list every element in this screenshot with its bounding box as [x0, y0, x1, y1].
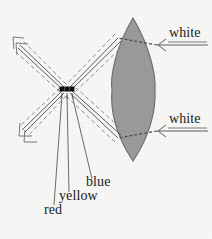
label-yellow: yellow	[59, 189, 98, 203]
biconvex-lens-shape	[112, 18, 156, 161]
upper-incoming-beam	[157, 39, 208, 51]
convergence-dots	[60, 87, 75, 92]
label-white-lower: white	[169, 112, 201, 126]
label-blue: blue	[86, 175, 111, 189]
lens-dispersion-figure: white white blue yellow red	[0, 0, 212, 239]
label-white-upper: white	[169, 26, 201, 40]
lower-incoming-beam	[157, 125, 208, 137]
upper-left-exiting-bundle	[13, 37, 66, 92]
label-red: red	[44, 203, 62, 217]
